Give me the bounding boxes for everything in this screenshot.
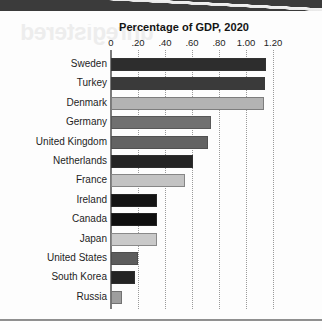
category-label: Sweden (7, 58, 107, 69)
bar-row: Netherlands (0, 153, 322, 172)
bar-row: South Korea (0, 269, 322, 288)
bar (111, 136, 208, 149)
category-label: United Kingdom (7, 136, 107, 147)
bar (111, 233, 157, 246)
bar-row: Japan (0, 231, 322, 250)
bar-row: United States (0, 250, 322, 269)
bar-row: Ireland (0, 192, 322, 211)
bar (111, 77, 265, 90)
category-label: South Korea (7, 271, 107, 282)
x-axis-tick-label: 0 (108, 37, 113, 48)
bar (111, 291, 122, 304)
bar-row: Canada (0, 211, 322, 230)
bar (111, 174, 185, 187)
category-label: Turkey (7, 77, 107, 88)
scanned-page: unregistered Percentage of GDP, 2020 0.2… (0, 0, 322, 330)
category-label: Russia (7, 291, 107, 302)
category-label: Germany (7, 116, 107, 127)
page-top-band (0, 0, 322, 11)
category-label: Netherlands (7, 155, 107, 166)
bar (111, 97, 264, 110)
plot-area: 0.20.40.60.801.001.20SwedenTurkeyDenmark… (0, 11, 322, 319)
category-label: Canada (7, 213, 107, 224)
x-axis-tick-label: .20 (131, 37, 144, 48)
x-axis-tick-label: .80 (212, 37, 225, 48)
page-scan-sliver (108, 0, 322, 11)
bar-row: Russia (0, 289, 322, 308)
category-label: France (7, 174, 107, 185)
bar (111, 58, 266, 71)
bar (111, 194, 157, 207)
bar-row: Turkey (0, 75, 322, 94)
bar-row: United Kingdom (0, 134, 322, 153)
bar (111, 155, 193, 168)
x-axis-tick-label: .40 (158, 37, 171, 48)
category-label: Denmark (7, 97, 107, 108)
bar (111, 213, 157, 226)
category-label: Japan (7, 233, 107, 244)
x-axis-tick-label: .60 (185, 37, 198, 48)
page-bottom-rule (0, 319, 322, 321)
x-axis-tick-label: 1.20 (264, 37, 283, 48)
x-axis-tick-label: 1.00 (237, 37, 256, 48)
bar-row: Germany (0, 114, 322, 133)
bar (111, 116, 211, 129)
category-label: United States (7, 252, 107, 263)
bar-chart: Percentage of GDP, 2020 0.20.40.60.801.0… (0, 11, 322, 319)
bar-row: Sweden (0, 56, 322, 75)
bar-row: France (0, 172, 322, 191)
bar-row: Denmark (0, 95, 322, 114)
bar (111, 271, 135, 284)
category-label: Ireland (7, 194, 107, 205)
bar (111, 252, 138, 265)
